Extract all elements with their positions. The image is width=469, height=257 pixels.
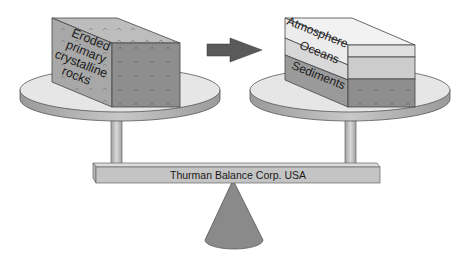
fulcrum-cone (205, 180, 263, 249)
left-post (111, 118, 122, 170)
arrow-right-icon (207, 38, 262, 62)
beam-label: Thurman Balance Corp. USA (170, 169, 306, 181)
balance-beam: Thurman Balance Corp. USA (93, 163, 380, 183)
balance-diagram: Thurman Balance Corp. USA Eroded primary… (0, 0, 469, 257)
right-post (345, 118, 356, 170)
